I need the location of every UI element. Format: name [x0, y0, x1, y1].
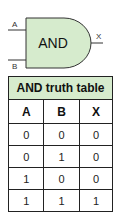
- cell-a: 1: [9, 168, 44, 190]
- cell-x: 1: [79, 190, 112, 212]
- cell-x: 0: [79, 146, 112, 168]
- table-row: 1 0 0: [9, 168, 113, 190]
- table-row: 1 1 1: [9, 190, 113, 212]
- table-row: 0 1 0: [9, 146, 113, 168]
- column-header-a: A: [9, 100, 44, 124]
- cell-a: 1: [9, 190, 44, 212]
- cell-a: 0: [9, 146, 44, 168]
- truth-table: AND truth table A B X 0 0 0 0 1 0 1 0 0 …: [8, 76, 113, 212]
- cell-x: 0: [79, 124, 112, 146]
- cell-a: 0: [9, 124, 44, 146]
- cell-b: 1: [44, 146, 79, 168]
- and-gate-diagram: A B X AND: [0, 0, 120, 72]
- input-b-label: B: [12, 62, 17, 71]
- table-row: 0 0 0: [9, 124, 113, 146]
- truth-table-title: AND truth table: [9, 77, 113, 100]
- output-x-label: X: [96, 32, 101, 41]
- column-header-b: B: [44, 100, 79, 124]
- input-a-label: A: [12, 20, 17, 29]
- cell-b: 1: [44, 190, 79, 212]
- gate-label: AND: [26, 18, 80, 68]
- cell-x: 0: [79, 168, 112, 190]
- cell-b: 0: [44, 124, 79, 146]
- column-header-x: X: [79, 100, 112, 124]
- cell-b: 0: [44, 168, 79, 190]
